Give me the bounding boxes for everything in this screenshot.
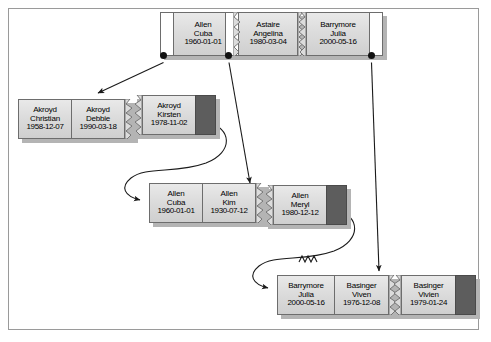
record-cell-filled[interactable] [195, 95, 216, 135]
record-date: 1980-12-12 [278, 209, 322, 218]
page-allen-2[interactable]: Allen Meryl 1980-12-12 [264, 185, 347, 225]
record-date: 1978-11-02 [147, 119, 191, 128]
page-pointer-dot[interactable] [160, 52, 167, 59]
record-cell[interactable]: Basinger Viven 1976-12-08 [334, 275, 389, 315]
record-date: 1979-01-24 [406, 299, 451, 308]
record-cell[interactable]: Astaire Angelina 1980-03-04 [238, 12, 298, 56]
record-date: 2000-05-16 [311, 38, 365, 47]
page-torn-edge-icon [133, 95, 142, 135]
record-cell[interactable]: Akroyd Christian 1958-12-07 [18, 99, 72, 139]
page-torn-edge-icon [297, 12, 306, 56]
page-akroyd-2[interactable]: Akroyd Kirsten 1978-11-02 [133, 95, 216, 135]
page-basinger-2[interactable]: Basinger Vivien 1979-01-24 [392, 275, 476, 315]
diagram-canvas: Allen Cuba 1960-01-01 Astaire Angelina 1… [0, 0, 491, 342]
record-cell[interactable]: Allen Cuba 1960-01-01 [173, 12, 233, 56]
page-pointer-dot[interactable] [225, 52, 232, 59]
page-allen-1[interactable]: Allen Cuba 1960-01-01 Allen Kim 1930-07-… [149, 183, 265, 223]
record-cell-filled[interactable] [455, 275, 476, 315]
record-cell[interactable]: Basinger Vivien 1979-01-24 [401, 275, 456, 315]
page-torn-edge-icon [392, 275, 401, 315]
record-date: 1960-01-01 [178, 38, 228, 47]
record-cell[interactable]: Allen Meryl 1980-12-12 [273, 185, 327, 225]
record-date: 1990-03-18 [76, 123, 120, 132]
record-cell[interactable]: Barrymore Julia 2000-05-16 [306, 12, 370, 56]
record-cell[interactable]: Allen Cuba 1960-01-01 [149, 183, 203, 223]
page-pointer-dot[interactable] [368, 52, 375, 59]
record-cell[interactable]: Barrymore Julia 2000-05-16 [277, 275, 335, 315]
page-torn-edge-icon [233, 12, 242, 56]
record-date: 1930-07-12 [207, 207, 251, 216]
page-torn-edge-icon [264, 185, 273, 225]
record-date: 1976-12-08 [339, 299, 384, 308]
record-date: 1958-12-07 [23, 123, 67, 132]
record-date: 2000-05-16 [282, 299, 330, 308]
record-cell[interactable]: Akroyd Debbie 1990-03-18 [71, 99, 125, 139]
record-cell-filled[interactable] [326, 185, 347, 225]
record-cell-empty[interactable] [160, 12, 174, 56]
page-top-3[interactable]: Barrymore Julia 2000-05-16 [297, 12, 383, 56]
page-barrymore-1[interactable]: Barrymore Julia 2000-05-16 Basinger Vive… [277, 275, 398, 315]
record-cell[interactable]: Akroyd Kirsten 1978-11-02 [142, 95, 196, 135]
record-cell[interactable]: Allen Kim 1930-07-12 [202, 183, 256, 223]
record-date: 1980-03-04 [243, 38, 293, 47]
record-date: 1960-01-01 [154, 207, 198, 216]
page-akroyd-1[interactable]: Akroyd Christian 1958-12-07 Akroyd Debbi… [18, 99, 134, 139]
record-cell-empty[interactable] [369, 12, 383, 56]
